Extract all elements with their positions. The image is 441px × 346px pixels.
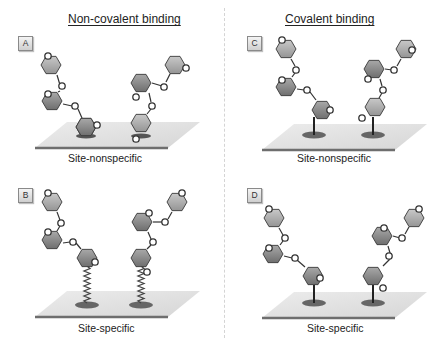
surface-d	[262, 292, 427, 318]
panel-d-scene	[262, 206, 427, 318]
panel-a-scene	[35, 53, 200, 148]
surface-b	[35, 291, 200, 317]
panel-b-scene	[35, 190, 200, 317]
surface-c	[262, 124, 427, 150]
surface-a	[35, 122, 200, 148]
glycan-binding-diagram	[0, 0, 441, 346]
panel-c-scene	[262, 37, 427, 150]
